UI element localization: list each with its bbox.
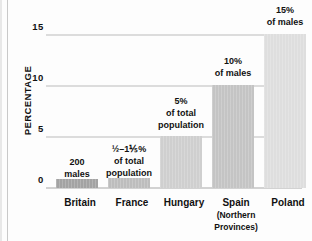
bar-france[interactable]	[108, 178, 150, 188]
y-tick-10: 10	[28, 72, 44, 83]
bar-label-spain: 10% of males	[202, 55, 264, 79]
bar-chart: PERCENTAGE 15 10 5 0	[0, 0, 312, 241]
bar-label-spain-value: 10%	[202, 55, 264, 67]
x-label-spain-sub-1: (Northern	[204, 209, 268, 221]
bar-hungary[interactable]	[160, 136, 202, 188]
x-label-hungary-text: Hungary	[164, 197, 205, 208]
bar-label-france-note-2: population	[98, 167, 160, 179]
x-label-poland: Poland	[256, 196, 312, 209]
page-edge-rule	[7, 0, 8, 241]
y-tick-5: 5	[28, 123, 44, 134]
bar-label-poland-value: 15%	[254, 4, 312, 16]
bar-poland-fill	[264, 34, 306, 188]
x-label-spain-text: Spain	[222, 197, 249, 208]
y-tick-15: 15	[28, 21, 44, 32]
bar-spain-fill	[212, 85, 254, 188]
y-tick-0: 0	[28, 174, 44, 185]
bar-label-france: ½–1⅕% of total population	[98, 143, 160, 179]
bar-britain-fill	[56, 179, 98, 188]
y-axis-title: PERCENTAGE	[22, 51, 33, 151]
bar-label-hungary: 5% of total population	[150, 95, 212, 131]
x-label-spain-sub-2: Provinces)	[204, 221, 268, 233]
x-label-poland-text: Poland	[271, 197, 304, 208]
x-label-france-text: France	[116, 197, 149, 208]
page-edge-shadow	[0, 0, 2, 241]
x-label-britain-text: Britain	[64, 197, 96, 208]
bar-label-poland: 15% of males	[254, 4, 312, 28]
bar-label-hungary-value: 5%	[150, 95, 212, 107]
bar-label-france-value: ½–1⅕%	[98, 143, 160, 155]
bar-britain[interactable]	[56, 179, 98, 188]
bar-label-spain-note: of males	[202, 67, 264, 79]
bar-france-fill	[108, 178, 150, 188]
bar-label-hungary-note-1: of total	[150, 107, 212, 119]
bar-label-poland-note: of males	[254, 16, 312, 28]
bar-spain[interactable]	[212, 85, 254, 188]
bar-hungary-fill	[160, 136, 202, 188]
bar-poland[interactable]	[264, 34, 306, 188]
bar-label-france-note-1: of total	[98, 155, 160, 167]
plot-area: 15 10 5 0 200 males ½–1⅕%	[46, 0, 302, 190]
bar-label-hungary-note-2: population	[150, 119, 212, 131]
